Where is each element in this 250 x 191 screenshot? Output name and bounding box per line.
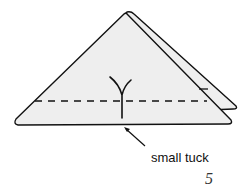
front-triangle [15,13,232,125]
tuck-label: small tuck [151,150,209,165]
pointer-line [126,129,145,146]
origami-diagram [0,0,250,191]
step-number: 5 [205,170,213,188]
